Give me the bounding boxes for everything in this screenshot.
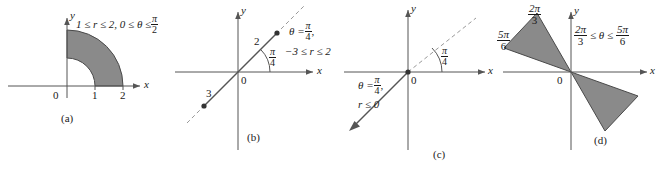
segment-length-label-lower: 3 [206, 88, 212, 99]
panel-c: y x 0 π4 θ =π4, r ≤ 0 (c) [330, 0, 495, 171]
axis-label-x: x [317, 65, 322, 76]
region-condition-a-fraction: π2 [151, 14, 158, 35]
axis-label-x: x [144, 79, 149, 90]
region-condition-a-text: 1 ≤ r ≤ 2, 0 ≤ θ ≤ [76, 18, 151, 30]
fraction-numerator: π [374, 75, 381, 85]
fraction-numerator: 5π [497, 29, 510, 40]
fraction-denominator: 4 [441, 56, 448, 67]
angle-label: π4 [441, 47, 448, 68]
axis-label-y: y [574, 5, 579, 16]
fraction-numerator: π [269, 47, 276, 57]
condition-fraction-right: 5π6 [616, 24, 629, 47]
condition-fraction: π4 [305, 21, 312, 42]
fraction-numerator: 2π [528, 3, 541, 14]
condition-line-2: r ≤ 0 [358, 99, 379, 110]
fraction-denominator: 6 [497, 40, 510, 52]
fraction-numerator: π [151, 14, 158, 24]
fraction-denominator: 4 [305, 31, 312, 42]
region-condition-d: 2π3≤ θ ≤5π6 [574, 25, 629, 48]
axis-label-x: x [650, 65, 655, 76]
fraction-denominator: 2 [151, 24, 158, 35]
panel-a: y x 0 1 2 1 ≤ r ≤ 2, 0 ≤ θ ≤π2 (a) [0, 0, 165, 171]
caption-b: (b) [247, 131, 260, 143]
condition-middle-text: ≤ θ ≤ [587, 29, 616, 41]
condition-line-1: θ =π4, [358, 76, 383, 97]
panel-d: y x 0 2π3 5π6 2π3≤ θ ≤5π6 (d) [495, 0, 664, 171]
x-axis-arrowhead [306, 69, 313, 75]
angle-label: π4 [269, 48, 276, 69]
fraction-denominator: 6 [616, 35, 629, 47]
fraction-numerator: 2π [574, 24, 587, 35]
y-axis-arrowhead [64, 18, 70, 25]
caption-c: (c) [433, 148, 445, 160]
condition-comma: , [312, 25, 315, 37]
y-axis-arrowhead [235, 12, 241, 19]
condition-comma: , [381, 79, 384, 91]
ray-angle-label-lower: 5π6 [497, 30, 510, 53]
endpoint-upper [274, 30, 279, 35]
ray-lower-fraction: 5π6 [497, 29, 510, 52]
origin-point [405, 69, 410, 74]
condition-line-1: θ =π4, [289, 22, 314, 43]
fraction-denominator: 3 [574, 35, 587, 47]
condition-fraction-left: 2π3 [574, 24, 587, 47]
caption-a: (a) [61, 112, 73, 124]
x-axis-arrowhead [133, 83, 140, 89]
y-axis-arrowhead [405, 10, 411, 17]
panel-b: y x 0 2 3 π4 θ =π4, −3 ≤ r ≤ 2 (b) [165, 0, 330, 171]
endpoint-lower [201, 103, 206, 108]
angle-fraction: π4 [269, 47, 276, 68]
axis-label-y: y [70, 10, 75, 21]
tick-label-1: 1 [92, 90, 98, 101]
line-segment [204, 33, 277, 106]
origin-label: 0 [411, 75, 417, 86]
fraction-denominator: 4 [269, 57, 276, 68]
condition-theta-equals: θ = [358, 79, 374, 91]
fraction-denominator: 3 [528, 14, 541, 26]
fraction-numerator: 5π [616, 24, 629, 35]
ray-angle-label-upper: 2π3 [528, 4, 541, 27]
region-condition-a: 1 ≤ r ≤ 2, 0 ≤ θ ≤π2 [76, 15, 158, 36]
segment-length-label-upper: 2 [254, 36, 260, 47]
axis-label-y: y [411, 3, 416, 14]
axis-label-x: x [488, 65, 493, 76]
fraction-denominator: 4 [374, 85, 381, 96]
quarter-annulus-region [67, 30, 123, 86]
x-axis-arrowhead [478, 69, 485, 75]
origin-label: 0 [241, 75, 247, 86]
condition-line-2: −3 ≤ r ≤ 2 [285, 46, 331, 57]
wedge-lower-right [571, 72, 638, 131]
condition-theta-equals: θ = [289, 25, 305, 37]
fraction-numerator: π [305, 21, 312, 31]
tick-label-2: 2 [120, 90, 126, 101]
ray-upper-fraction: 2π3 [528, 3, 541, 26]
origin-label: 0 [53, 90, 59, 101]
polar-coordinates-figure: y x 0 1 2 1 ≤ r ≤ 2, 0 ≤ θ ≤π2 (a) y [0, 0, 664, 171]
y-axis-arrowhead [568, 12, 574, 19]
angle-fraction: π4 [441, 46, 448, 67]
axis-label-y: y [241, 5, 246, 16]
x-axis-arrowhead [640, 69, 647, 75]
fraction-numerator: π [441, 46, 448, 56]
condition-fraction: π4 [374, 75, 381, 96]
caption-d: (d) [594, 134, 607, 146]
origin-label: 0 [557, 75, 563, 86]
